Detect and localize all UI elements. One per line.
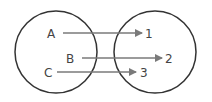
mapping-diagram: A B C 1 2 3	[0, 0, 212, 102]
domain-element-a: A	[47, 27, 56, 41]
codomain-element-3: 3	[140, 66, 148, 80]
domain-set-circle	[15, 11, 97, 93]
codomain-element-1: 1	[145, 27, 153, 41]
codomain-element-2: 2	[165, 52, 173, 66]
domain-element-c: C	[44, 66, 52, 80]
codomain-set-circle	[114, 11, 196, 93]
domain-element-b: B	[66, 52, 74, 66]
